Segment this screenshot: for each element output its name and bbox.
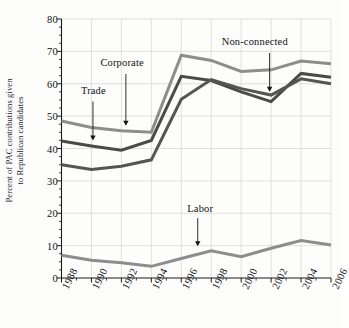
annotation-label-corporate: Corporate: [100, 57, 143, 68]
annotation-label-non-connected: Non-connected: [222, 36, 288, 47]
annotation-arrow-head: [123, 121, 128, 126]
annotation-label-trade: Trade: [81, 85, 106, 96]
annotation-label-labor: Labor: [187, 203, 213, 214]
series-line-labor: [62, 240, 332, 266]
